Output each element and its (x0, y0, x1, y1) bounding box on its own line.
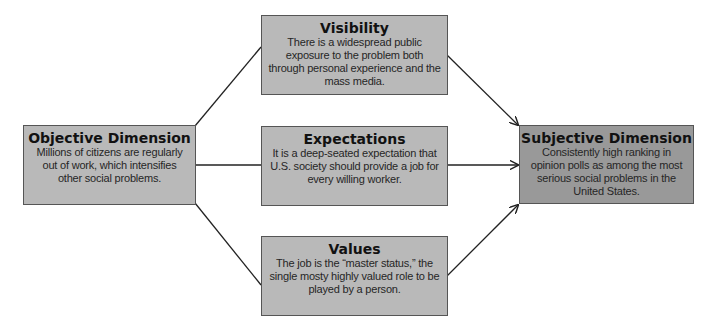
node-expectations: Expectations It is a deep-seated expecta… (261, 126, 448, 206)
node-values: Values The job is the “master status,” t… (261, 236, 448, 316)
node-body: Millions of citizens are regularly out o… (24, 146, 195, 185)
node-subjective-dimension: Subjective Dimension Consistently high r… (519, 125, 694, 204)
edge-values-subjective (447, 205, 518, 276)
node-visibility: Visibility There is a widespread public … (261, 15, 448, 95)
node-body: It is a deep-seated expectation that U.S… (262, 147, 447, 186)
node-title: Visibility (262, 21, 447, 36)
edge-objective-visibility (195, 47, 261, 126)
node-body: There is a widespread public exposure to… (262, 36, 447, 88)
node-body: Consistently high ranking in opinion pol… (520, 146, 693, 198)
node-title: Values (262, 242, 447, 257)
node-objective-dimension: Objective Dimension Millions of citizens… (23, 125, 196, 205)
node-title: Objective Dimension (24, 131, 195, 146)
node-title: Subjective Dimension (520, 131, 693, 146)
edge-objective-values (195, 203, 261, 285)
node-title: Expectations (262, 132, 447, 147)
node-body: The job is the “master status,” the sing… (262, 257, 447, 296)
edge-visibility-subjective (447, 55, 518, 125)
